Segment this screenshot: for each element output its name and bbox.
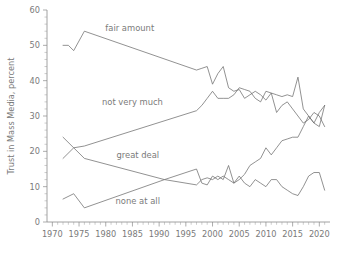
series-line-none-at-all xyxy=(63,105,325,207)
x-tick-label: 2010 xyxy=(256,229,277,239)
y-axis: 0102030405060 Trust in Mass Media, perce… xyxy=(6,5,47,227)
x-tick-label-group: 1970197519801985199019952000200520102015… xyxy=(42,229,330,239)
x-tick-label: 1985 xyxy=(122,229,143,239)
x-tick-label: 1990 xyxy=(149,229,170,239)
x-minor-tick-group xyxy=(58,222,325,225)
x-tick-label: 2020 xyxy=(309,229,330,239)
y-tick-label-group: 0102030405060 xyxy=(30,5,40,227)
x-tick-label: 1970 xyxy=(42,229,63,239)
series-label-none-at-all: none at all xyxy=(116,196,160,206)
x-tick-label: 2000 xyxy=(202,229,223,239)
series-line-fair-amount xyxy=(63,31,325,126)
y-tick-label: 0 xyxy=(35,217,40,227)
series-label-great-deal: great deal xyxy=(116,150,159,160)
y-axis-title: Trust in Mass Media, percent xyxy=(6,57,16,176)
chart-figure: 0102030405060 Trust in Mass Media, perce… xyxy=(0,0,344,258)
x-tick-label: 1980 xyxy=(95,229,116,239)
x-tick-label: 2015 xyxy=(282,229,303,239)
y-tick-label: 60 xyxy=(30,5,40,15)
x-tick-group xyxy=(52,222,319,227)
y-tick-label: 10 xyxy=(30,182,40,192)
y-tick-label: 20 xyxy=(30,146,40,156)
trust-in-mass-media-line-chart: 0102030405060 Trust in Mass Media, perce… xyxy=(0,0,344,258)
series-line-great-deal xyxy=(63,137,325,195)
y-tick-group xyxy=(43,10,47,222)
series-label-group: fair amountnot very muchgreat dealnone a… xyxy=(102,23,163,206)
x-axis: 1970197519801985199019952000200520102015… xyxy=(42,222,330,239)
y-tick-label: 50 xyxy=(30,40,40,50)
x-tick-label: 2005 xyxy=(229,229,250,239)
y-tick-label: 40 xyxy=(30,76,40,86)
series-label-not-very-much: not very much xyxy=(102,97,163,107)
y-tick-label: 30 xyxy=(30,111,40,121)
x-tick-label: 1975 xyxy=(69,229,90,239)
series-label-fair-amount: fair amount xyxy=(105,23,155,33)
x-tick-label: 1995 xyxy=(175,229,196,239)
series-path-group xyxy=(63,31,325,208)
